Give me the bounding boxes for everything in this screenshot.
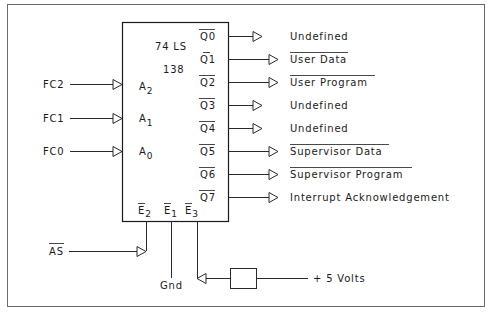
output-label: Supervisor Program — [290, 169, 403, 180]
arrow-icon — [269, 55, 278, 65]
output-label: User Program — [290, 77, 368, 88]
pin-label-q5: Q5 — [200, 146, 216, 157]
resistor-icon — [231, 269, 257, 289]
arrow-icon — [269, 78, 278, 88]
decoder-diagram: 74 LS 138 FC2 A2 FC1 A1 FC0 A0 Q0 Undefi… — [0, 0, 489, 312]
pin-label-q2: Q2 — [200, 77, 216, 88]
enable-e2: E2 — [138, 204, 152, 252]
output-q6: Q6 Supervisor Program — [199, 168, 412, 181]
output-label: Undefined — [290, 100, 349, 111]
as-label: AS — [49, 246, 64, 257]
output-label: Supervisor Data — [290, 146, 383, 157]
as-signal: AS — [49, 244, 146, 258]
pin-label-q6: Q6 — [200, 169, 216, 180]
enable-e1: E1 — [164, 204, 178, 279]
pin-label-q7: Q7 — [200, 192, 216, 203]
enable-e3: E3 — [185, 204, 199, 279]
arrow-icon — [269, 193, 278, 203]
input-signal-label: FC1 — [43, 113, 65, 124]
input-signal-label: FC2 — [43, 79, 65, 90]
vcc-signal: + 5 Volts — [197, 269, 365, 289]
arrow-icon — [269, 147, 278, 157]
output-label: Undefined — [290, 31, 349, 42]
vcc-label: + 5 Volts — [313, 273, 365, 284]
output-label: Interrupt Acknowledgement — [290, 192, 450, 203]
output-label: User Data — [290, 54, 347, 65]
arrow-icon — [137, 247, 146, 257]
chip-part-label: 138 — [163, 64, 185, 75]
pin-label-q4: Q4 — [200, 123, 216, 134]
diagram-frame — [8, 5, 485, 307]
output-q7: Q7 Interrupt Acknowledgement — [199, 191, 450, 204]
arrow-icon — [197, 274, 206, 284]
arrow-icon — [113, 147, 122, 157]
gnd-label: Gnd — [160, 280, 183, 291]
pin-label-q3: Q3 — [200, 100, 216, 111]
arrow-icon — [253, 124, 262, 134]
input-signal-label: FC0 — [43, 146, 65, 157]
pin-label-q0: Q0 — [200, 31, 216, 42]
arrow-icon — [253, 32, 262, 42]
arrow-icon — [113, 80, 122, 90]
pin-label-q1: Q1 — [200, 54, 216, 65]
arrow-icon — [269, 170, 278, 180]
output-label: Undefined — [290, 123, 349, 134]
arrow-icon — [253, 101, 262, 111]
arrow-icon — [113, 114, 122, 124]
chip-family-label: 74 LS — [155, 41, 187, 52]
